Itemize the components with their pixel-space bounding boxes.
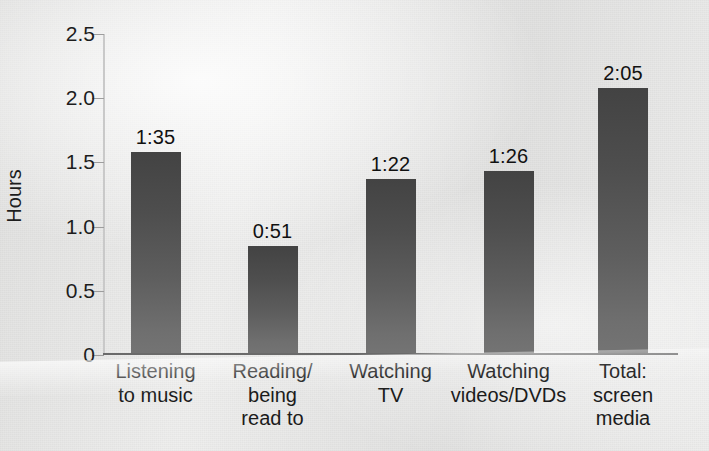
bar-3[interactable] (484, 171, 534, 355)
y-tick-label-3: 1.5 (37, 150, 95, 174)
x-category-label-1: Reading/ being read to (232, 360, 312, 431)
x-category-label-3: Watching videos/DVDs (451, 360, 567, 407)
y-tick-label-4: 2.0 (37, 86, 95, 110)
x-category-label-4: Total: screen media (593, 360, 653, 431)
x-category-label-0: Listening to music (115, 360, 195, 407)
x-axis-line (103, 353, 678, 355)
plot-area: 0 0.5 1.0 1.5 2.0 2.5 (103, 34, 678, 355)
gridline-2 (103, 227, 104, 228)
x-category-label-2: Watching TV (349, 360, 432, 407)
y-axis-ticks: 0 0.5 1.0 1.5 2.0 2.5 (103, 34, 104, 355)
gridline-4 (103, 98, 104, 99)
y-tick-label-1: 0.5 (37, 278, 95, 302)
bar-value-1: 0:51 (253, 220, 293, 243)
bar-value-0: 1:35 (136, 126, 176, 149)
gridline-3 (103, 162, 104, 163)
y-tick-label-5: 2.5 (37, 22, 95, 46)
y-tick-label-2: 1.0 (37, 214, 95, 238)
gridline-0 (103, 355, 104, 356)
bar-value-4: 2:05 (603, 62, 643, 85)
gridline-5 (103, 34, 104, 35)
bar-value-3: 1:26 (489, 145, 529, 168)
bar-1[interactable] (248, 246, 298, 355)
y-axis-title: Hours (3, 169, 26, 222)
bar-2[interactable] (366, 179, 416, 355)
bar-value-2: 1:22 (371, 153, 411, 176)
y-tick-label-0: 0 (37, 343, 95, 367)
bar-4[interactable] (598, 88, 648, 355)
gridline-1 (103, 291, 104, 292)
chart-figure: Hours 0 0.5 1.0 1.5 2.0 2.5 (0, 0, 709, 451)
bar-0[interactable] (131, 152, 181, 355)
